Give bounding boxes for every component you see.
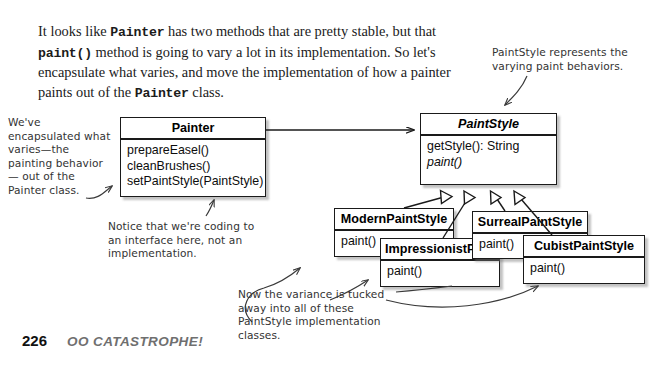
inline-code-painter-2: Painter xyxy=(135,86,189,101)
method-item: prepareEasel() xyxy=(127,143,265,159)
page-footer: 226 OO CATASTROPHE! xyxy=(22,332,203,349)
note-encapsulated-varies: We've encapsulated what varies—the paint… xyxy=(8,116,112,197)
inline-code-painter-1: Painter xyxy=(110,25,164,40)
uml-class-modernpaintstyle-title: ModernPaintStyle xyxy=(335,209,453,230)
uml-interface-paintstyle-methods: getStyle(): String paint() xyxy=(421,135,556,174)
intro-text-2: has two methods that are pretty stable, … xyxy=(164,23,436,39)
book-page: It looks like Painter has two methods th… xyxy=(0,0,662,365)
method-item: paint() xyxy=(387,264,499,280)
uml-class-surrealpaintstyle-title: SurrealPaintStyle xyxy=(473,212,587,233)
uml-class-cubistpaintstyle-title: CubistPaintStyle xyxy=(524,236,644,257)
uml-class-cubistpaintstyle-methods: paint() xyxy=(524,257,644,281)
uml-class-painter-methods: prepareEasel() cleanBrushes() setPaintSt… xyxy=(121,139,265,194)
pointer-topright-note-to-paintstyle xyxy=(505,76,527,105)
uml-class-cubistpaintstyle: CubistPaintStyle paint() xyxy=(523,235,645,284)
note-variance-tucked-away: Now the variance is tucked away into all… xyxy=(238,288,398,342)
pointer-interface-note-to-painter xyxy=(206,200,214,216)
method-item: setPaintStyle(PaintStyle) xyxy=(127,174,265,190)
inline-code-paint-method: paint() xyxy=(38,46,92,61)
method-item-abstract: paint() xyxy=(427,155,556,171)
intro-paragraph: It looks like Painter has two methods th… xyxy=(38,22,458,103)
intro-text-1: It looks like xyxy=(38,23,110,39)
intro-text-3: method is going to vary a lot in its imp… xyxy=(38,44,451,100)
uml-interface-paintstyle-title: PaintStyle xyxy=(421,114,556,135)
method-item: paint() xyxy=(530,261,644,277)
note-paintstyle-represents: PaintStyle represents the varying paint … xyxy=(492,46,660,73)
uml-class-painter: Painter prepareEasel() cleanBrushes() se… xyxy=(120,117,266,197)
intro-text-4: class. xyxy=(189,84,224,100)
inheritance-modern-to-paintstyle xyxy=(404,191,452,209)
pointer-variance-note-to-cubist xyxy=(386,286,538,307)
uml-interface-paintstyle: PaintStyle getStyle(): String paint() xyxy=(420,113,557,185)
uml-class-painter-title: Painter xyxy=(121,118,265,139)
page-number: 226 xyxy=(22,332,47,349)
method-item: getStyle(): String xyxy=(427,139,556,155)
note-coding-to-interface: Notice that we're coding to an interface… xyxy=(108,220,258,261)
method-item: cleanBrushes() xyxy=(127,159,265,175)
uml-class-impressionistpaintstyle-methods: paint() xyxy=(381,260,499,284)
inheritance-surreal-to-paintstyle xyxy=(491,191,506,211)
chapter-title: OO CATASTROPHE! xyxy=(67,334,203,349)
